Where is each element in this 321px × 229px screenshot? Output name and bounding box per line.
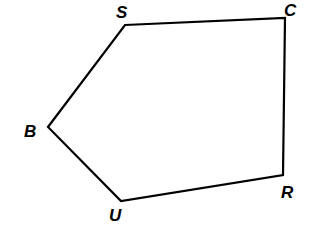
vertex-label-r: R [281, 183, 294, 202]
vertex-label-b: B [24, 122, 36, 141]
vertex-label-s: S [116, 3, 128, 22]
vertex-label-u: U [109, 206, 122, 225]
pentagon-shape [48, 18, 285, 201]
pentagon-diagram: S C R U B [0, 0, 321, 229]
vertex-label-c: C [284, 1, 297, 20]
